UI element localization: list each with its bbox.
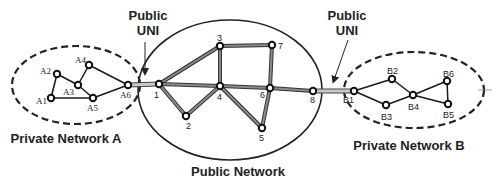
node-label-5: 5 xyxy=(259,133,264,143)
node-label-b3: B3 xyxy=(381,112,392,122)
node-a2 xyxy=(54,71,60,77)
node-b2 xyxy=(389,76,395,82)
uni-label-1-line2: UNI xyxy=(137,23,159,38)
node-label-a1: A1 xyxy=(36,96,47,106)
private-network-a-label: Private Network A xyxy=(11,131,122,146)
node-a5 xyxy=(90,95,96,101)
private-link-B4-B6 xyxy=(413,81,447,95)
private-link-B1-B3 xyxy=(354,91,386,105)
private-link-A4-A6 xyxy=(89,65,128,85)
node-label-a3: A3 xyxy=(63,87,74,97)
node-b5 xyxy=(445,101,451,107)
node-label-a6: A6 xyxy=(120,90,131,100)
node-3 xyxy=(217,43,223,49)
uni-arrow-icon xyxy=(334,40,348,80)
node-label-b2: B2 xyxy=(387,66,398,76)
region-labels: Private Network A Public Network Private… xyxy=(11,131,465,179)
node-b1 xyxy=(351,88,357,94)
uni-label-2-line2: UNI xyxy=(336,23,358,38)
public-link-fill xyxy=(159,84,186,116)
node-label-a2: A2 xyxy=(40,66,51,76)
public-link-fill xyxy=(159,46,220,84)
node-label-a5: A5 xyxy=(87,103,98,113)
public-link-fill xyxy=(186,86,220,116)
node-label-b5: B5 xyxy=(443,110,454,120)
uni-label-1-line1: Public xyxy=(128,8,167,23)
node-2 xyxy=(183,113,189,119)
node-label-7: 7 xyxy=(278,41,283,51)
public-network-label: Public Network xyxy=(191,164,286,179)
node-label-b6: B6 xyxy=(443,69,454,79)
node-a4 xyxy=(86,62,92,68)
node-label-2: 2 xyxy=(186,121,191,131)
node-label-6: 6 xyxy=(260,90,265,100)
private-network-b-boundary xyxy=(344,52,484,128)
node-b3 xyxy=(383,102,389,108)
node-5 xyxy=(259,125,265,131)
node-a6 xyxy=(125,82,131,88)
node-label-8: 8 xyxy=(310,95,315,105)
node-label-b1: B1 xyxy=(343,95,354,105)
node-4 xyxy=(217,83,223,89)
node-7 xyxy=(269,42,275,48)
node-label-3: 3 xyxy=(217,33,222,43)
node-label-a4: A4 xyxy=(75,55,86,65)
private-link-B1-B2 xyxy=(354,79,392,91)
uni-link-fill xyxy=(128,84,159,85)
network-diagram: A1A2A3A4A5A612345678B1B2B3B4B5B6 PublicU… xyxy=(0,0,503,187)
node-a3 xyxy=(75,82,81,88)
public-link-fill xyxy=(220,45,272,46)
node-label-4: 4 xyxy=(217,92,222,102)
private-network-b-label: Private Network B xyxy=(353,138,464,153)
uni-label-2-line1: Public xyxy=(327,8,366,23)
node-b4 xyxy=(410,92,416,98)
node-8 xyxy=(310,88,316,94)
node-6 xyxy=(267,85,273,91)
node-1 xyxy=(156,81,162,87)
node-label-1: 1 xyxy=(154,90,159,100)
node-a1 xyxy=(48,95,54,101)
public-link-fill xyxy=(220,86,262,128)
node-label-b4: B4 xyxy=(408,102,419,112)
